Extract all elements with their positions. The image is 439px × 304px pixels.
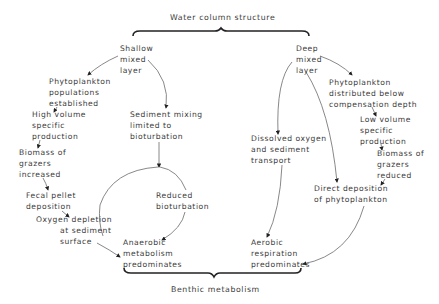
bottom-title: Benthic metabolism [171,285,260,294]
edge-dissolved-aerobic [267,165,282,237]
node-line: Biomass of [19,147,66,158]
node-sediment-mixing: Sediment mixing limited to bioturbation [130,109,203,142]
node-line: populations [49,87,111,98]
node-line: increased [19,169,66,180]
node-shallow-mixed-layer: Shallow mixed layer [120,43,153,76]
node-line: production [32,131,86,142]
node-line: specific [360,125,411,136]
node-grazers-reduced: Biomass of grazers reduced [377,148,424,181]
node-grazers-increased: Biomass of grazers increased [19,147,66,180]
node-line: High volume [32,109,86,120]
edge-shallow-phyto [88,56,118,75]
node-line: layer [120,65,153,76]
node-line: bioturbation [156,201,209,212]
node-line: Phytoplankton [49,76,111,87]
edge-direct-aerobic [303,206,364,264]
top-title: Water column structure [170,13,275,22]
node-line: Anaerobic [123,237,182,248]
node-line: Aerobic [251,237,310,248]
node-fecal-pellet: Fecal pellet deposition [26,190,76,212]
node-line: mixed [296,54,322,65]
node-line: compensation depth [329,99,417,110]
node-low-volume-production: Low volume specific production [360,114,411,147]
node-line: predominates [251,259,310,270]
node-line: Sediment mixing [130,109,203,120]
node-line: limited to [130,120,203,131]
node-line: surface [36,236,112,247]
node-line: Deep [296,43,322,54]
node-deep-mixed-layer: Deep mixed layer [296,43,322,76]
node-line: grazers [19,158,66,169]
diagram-canvas: Water column structure Benthic metabolis… [0,0,439,304]
node-line: respiration [251,248,310,259]
node-line: Oxygen depletion [36,214,112,225]
top-brace [133,28,309,36]
node-line: transport [251,155,327,166]
node-line: specific [32,120,86,131]
node-line: predominates [123,259,182,270]
node-line: grazers [377,159,424,170]
node-anaerobic-metabolism: Anaerobic metabolism predominates [123,237,182,270]
node-line: bioturbation [130,131,203,142]
node-line: Low volume [360,114,411,125]
node-phytoplankton-distributed: Phytoplankton distributed below compensa… [329,77,417,110]
node-phytoplankton-established: Phytoplankton populations established [49,76,111,109]
node-aerobic-respiration: Aerobic respiration predominates [251,237,310,270]
node-line: Shallow [120,43,153,54]
node-line: production [360,136,411,147]
node-high-volume-production: High volume specific production [32,109,86,142]
node-line: metabolism [123,248,182,259]
node-line: Dissolved oxygen [251,133,327,144]
node-line: Biomass of [377,148,424,159]
node-oxygen-depletion: Oxygen depletion at sediment surface [36,214,112,247]
node-line: Fecal pellet [26,190,76,201]
node-line: reduced [377,170,424,181]
edge-deep-dissolved [278,62,292,134]
node-line: at sediment [36,225,112,236]
node-line: Phytoplankton [329,77,417,88]
edge-loop-right [160,167,186,190]
edge-deep-phytodist [320,56,352,75]
node-line: deposition [26,201,76,212]
node-line: mixed [120,54,153,65]
node-line: of phytoplankton [314,194,388,205]
node-line: layer [296,65,322,76]
node-direct-deposition: Direct deposition of phytoplankton [314,183,388,205]
node-line: established [49,98,111,109]
node-line: and sediment [251,144,327,155]
node-reduced-bioturbation: Reduced bioturbation [156,190,209,212]
node-line: Reduced [156,190,209,201]
edge-reduced-anaerobic [162,212,185,240]
node-line: distributed below [329,88,417,99]
node-dissolved-oxygen: Dissolved oxygen and sediment transport [251,133,327,166]
node-line: Direct deposition [314,183,388,194]
